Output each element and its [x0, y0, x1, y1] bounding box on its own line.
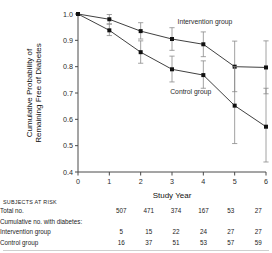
x-tick-label: 5: [233, 177, 237, 186]
y-tick-label: 0.7: [63, 89, 73, 98]
data-point-marker: [170, 37, 174, 41]
row-value: 53: [217, 205, 244, 216]
y-tick-label: 0.9: [63, 36, 73, 45]
y-tick-label: 0.5: [63, 141, 73, 150]
row-label: Intervention group: [0, 227, 108, 238]
row-label: Total no.: [0, 205, 108, 216]
x-tick-label: 3: [170, 177, 174, 186]
row-value: [245, 216, 272, 227]
data-point-marker: [264, 65, 268, 69]
row-value: 167: [190, 205, 217, 216]
table-row: Cumulative no. with diabetes:: [0, 216, 272, 227]
row-label: Cumulative no. with diabetes:: [0, 216, 108, 227]
x-tick-label: 0: [76, 177, 80, 186]
data-point-marker: [201, 73, 205, 77]
table-row: Total no.5074713741675327: [0, 205, 272, 216]
series-label-0: Intervention group: [178, 18, 233, 26]
x-tick-label: 1: [107, 177, 111, 186]
data-point-marker: [170, 67, 174, 71]
data-point-marker: [139, 29, 143, 33]
data-point-marker: [201, 42, 205, 46]
row-value: 27: [245, 205, 272, 216]
subjects-at-risk-table: SUBJECTS AT RISK Total no.50747137416753…: [0, 199, 272, 249]
series-label-1: Control group: [170, 88, 211, 96]
bottom-divider: [3, 250, 269, 251]
row-value: 374: [162, 205, 189, 216]
data-point-marker: [264, 125, 268, 129]
y-axis-title-line1: Cumulative Probability of: [25, 48, 34, 137]
row-value: 5: [108, 227, 135, 238]
row-value: 27: [217, 227, 244, 238]
x-tick-label: 4: [201, 177, 205, 186]
y-tick-label: 1.0: [63, 10, 73, 19]
data-point-marker: [139, 50, 143, 54]
row-value: [162, 216, 189, 227]
row-value: 27: [245, 227, 272, 238]
y-tick-label: 0.4: [63, 168, 73, 177]
row-value: [108, 216, 135, 227]
y-tick-label: 0.6: [63, 115, 73, 124]
row-value: 59: [245, 238, 272, 249]
row-value: 53: [190, 238, 217, 249]
row-value: 15: [135, 227, 162, 238]
x-tick-label: 2: [139, 177, 143, 186]
risk-table-grid: Total no.5074713741675327Cumulative no. …: [0, 205, 272, 249]
survival-curve-chart: 0.40.50.60.70.80.91.00123456Study YearCu…: [0, 0, 272, 200]
data-point-marker: [107, 28, 111, 32]
row-value: 22: [162, 227, 189, 238]
row-value: 51: [162, 238, 189, 249]
data-point-marker: [233, 104, 237, 108]
row-value: [135, 216, 162, 227]
row-value: 57: [217, 238, 244, 249]
row-value: 471: [135, 205, 162, 216]
row-value: 507: [108, 205, 135, 216]
x-tick-label: 6: [264, 177, 268, 186]
table-row: Intervention group51522242727: [0, 227, 272, 238]
data-point-marker: [107, 17, 111, 21]
table-row: Control group163751535759: [0, 238, 272, 249]
row-value: [190, 216, 217, 227]
row-value: 37: [135, 238, 162, 249]
data-point-marker: [76, 12, 80, 16]
y-tick-label: 0.8: [63, 62, 73, 71]
y-axis-title-line2: Remaining Free of Diabetes: [34, 43, 43, 143]
row-value: [217, 216, 244, 227]
row-label: Control group: [0, 238, 108, 249]
row-value: 24: [190, 227, 217, 238]
row-value: 16: [108, 238, 135, 249]
